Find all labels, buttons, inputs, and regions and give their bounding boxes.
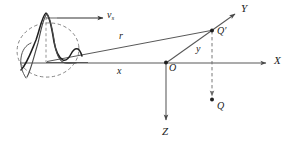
z-axis-label: Z xyxy=(162,126,168,137)
y-axis-line xyxy=(166,14,235,63)
origin-label: O xyxy=(169,63,176,73)
q-label: Q xyxy=(217,101,224,111)
diagram-canvas xyxy=(0,0,289,147)
qprime-point-marker xyxy=(210,29,214,33)
x-axis-label: X xyxy=(274,55,281,66)
velocity-label: vs xyxy=(107,10,114,20)
y-axis-label: Y xyxy=(241,3,247,14)
q-point-marker xyxy=(210,98,214,102)
x-distance-label: x xyxy=(117,66,121,76)
y-distance-label: y xyxy=(196,44,200,54)
qprime-mark: ′ xyxy=(224,25,226,36)
pulse-waveform-main xyxy=(21,13,82,70)
r-label: r xyxy=(119,31,123,41)
r-segment-line xyxy=(47,31,211,62)
qprime-label: Q′ xyxy=(217,26,226,36)
velocity-subscript: s xyxy=(111,14,114,22)
physics-diagram-figure: X Y Z O Q′ Q vs r x y xyxy=(0,0,289,147)
origin-point-marker xyxy=(164,61,168,65)
